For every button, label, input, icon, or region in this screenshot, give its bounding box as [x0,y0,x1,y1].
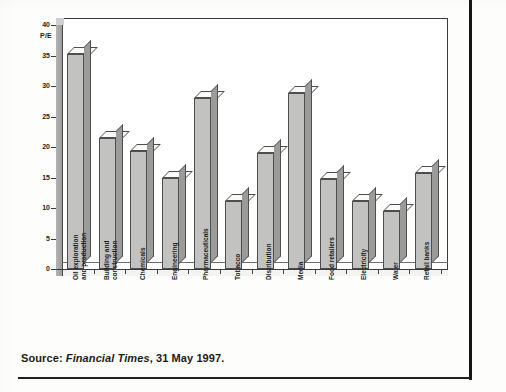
figure-chart: P/E 0510152025303540 Oil explorationand … [18,6,458,342]
x-tick-mark [346,270,347,274]
source-caption: Source: Financial Times, 31 May 1997. [21,352,224,364]
bar-side-face [274,139,281,263]
y-tick-mark [51,86,56,87]
y-tick-label: 5 [24,235,50,243]
y-tick-label: 15 [24,174,50,182]
bar-side-face [337,165,344,263]
y-tick-label: 40 [24,21,50,29]
y-axis-label: P/E [18,32,52,39]
x-tick-mark [409,270,410,274]
source-prefix: Source: [21,352,63,364]
y-tick-mark [51,178,56,179]
bar-side-face [400,197,407,263]
x-tick-mark [157,270,158,274]
bar-side-face [432,159,439,263]
source-suffix: , 31 May 1997. [150,352,225,364]
bar-side-face [179,164,186,264]
y-tick-mark [51,117,56,118]
page-bottom-rule [18,377,470,379]
x-tick-mark [125,270,126,274]
y-tick-mark [51,147,56,148]
y-tick-label: 30 [24,82,50,90]
bar-side-face [369,187,376,263]
y-tick-mark [51,25,56,26]
page: P/E 0510152025303540 Oil explorationand … [0,0,506,392]
x-tick-mark [283,270,284,274]
baseline [56,269,448,270]
y-tick-label: 25 [24,113,50,121]
x-tick-mark [94,270,95,274]
bar-side-face [305,79,312,263]
x-tick-mark [252,270,253,274]
x-tick-mark [441,270,442,274]
bar-side-face [147,137,154,263]
x-tick-mark [378,270,379,274]
y-tick-mark [51,56,56,57]
x-tick-mark [188,270,189,274]
y-axis-wall [56,18,63,276]
y-tick-label: 35 [24,52,50,60]
page-right-rule [469,0,472,380]
y-tick-label: 10 [24,204,50,212]
bar-side-face [211,84,218,263]
y-tick-mark [51,208,56,209]
y-tick-label: 20 [24,143,50,151]
x-tick-mark [220,270,221,274]
y-tick-mark [51,239,56,240]
bar-side-face [242,187,249,263]
y-axis-wall-top [56,18,64,25]
y-tick-label: 0 [24,265,50,273]
x-tick-mark [315,270,316,274]
source-publication: Financial Times [66,352,150,364]
